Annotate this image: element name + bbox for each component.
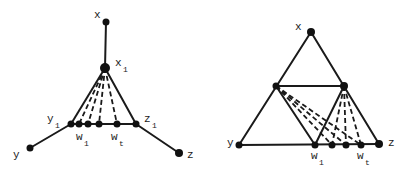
node-mid-right <box>340 82 348 90</box>
label-wt: w <box>357 150 364 162</box>
label-z: z <box>388 137 395 149</box>
edge-z1-z <box>136 124 179 153</box>
node-z <box>175 149 183 157</box>
label-x: x <box>94 9 101 21</box>
label-y: y <box>13 149 20 161</box>
label-x1: x <box>115 57 122 69</box>
node-y1 <box>68 121 75 128</box>
label-w1: w <box>311 150 318 162</box>
label-wt: w <box>111 131 118 143</box>
node-w <box>329 142 336 149</box>
label-y1-sub: 1 <box>55 121 60 130</box>
node-x <box>103 19 110 26</box>
node-y <box>27 145 34 152</box>
label-w1: w <box>76 131 83 143</box>
node-w <box>343 142 350 149</box>
label-z: z <box>187 149 194 161</box>
node-w1 <box>76 121 83 128</box>
node-w <box>85 121 92 128</box>
node-wt <box>114 121 121 128</box>
node-y <box>236 142 243 149</box>
label-w1-sub: 1 <box>84 139 89 148</box>
dashed-edge <box>105 68 117 124</box>
dashed-edge <box>276 86 332 145</box>
node-x1 <box>100 63 110 73</box>
label-y: y <box>227 137 234 149</box>
label-z1-sub: 1 <box>152 121 157 130</box>
edge-left-w1 <box>276 86 315 145</box>
node-wt <box>358 142 365 149</box>
label-y1: y <box>47 113 54 125</box>
node-z <box>375 140 383 148</box>
diagram-canvas: x x 1 y 1 z 1 w 1 w t y z x <box>0 0 406 174</box>
dashed-edge <box>276 86 346 145</box>
dashed-edge <box>332 86 344 145</box>
node-w1 <box>312 142 319 149</box>
right-graph: x y z w 1 w t <box>227 21 395 167</box>
edge-y1-y <box>30 124 71 148</box>
left-graph: x x 1 y 1 z 1 w 1 w t y z <box>13 9 194 161</box>
label-wt-sub: t <box>119 139 124 148</box>
edge-x-x1 <box>105 22 106 68</box>
node-w <box>96 121 103 128</box>
node-x <box>307 28 315 36</box>
edge-x1-y1 <box>71 68 105 124</box>
label-x1-sub: 1 <box>123 65 128 74</box>
node-mid-left <box>273 83 280 90</box>
label-w1-sub: 1 <box>319 158 324 167</box>
label-z1: z <box>144 113 151 125</box>
node-z1 <box>133 121 140 128</box>
label-x: x <box>295 21 302 33</box>
edge-x1-z1 <box>105 68 136 124</box>
label-wt-sub: t <box>365 158 370 167</box>
